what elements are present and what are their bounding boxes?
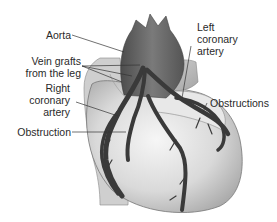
label-aorta: Aorta bbox=[46, 29, 71, 41]
vein-grafts-text-2: from the leg bbox=[26, 67, 81, 79]
heart-bypass-diagram: Aorta Vein grafts from the leg Right cor… bbox=[0, 0, 277, 222]
label-obstructions: Obstructions bbox=[210, 97, 269, 109]
aorta-leader bbox=[72, 35, 124, 52]
label-obstruction: Obstruction bbox=[17, 126, 71, 138]
left-coronary-text-2: coronary bbox=[197, 33, 238, 45]
right-coronary-text-3: artery bbox=[29, 106, 70, 118]
right-coronary-text-1: Right bbox=[29, 82, 70, 94]
obstruction-text: Obstruction bbox=[17, 126, 71, 138]
label-vein-grafts: Vein grafts from the leg bbox=[26, 55, 81, 79]
obstructions-text: Obstructions bbox=[210, 97, 269, 109]
label-right-coronary-artery: Right coronary artery bbox=[29, 82, 70, 118]
left-coronary-text-1: Left bbox=[197, 21, 238, 33]
vein-grafts-text-1: Vein grafts bbox=[26, 55, 81, 67]
aorta-text: Aorta bbox=[46, 29, 71, 41]
right-coronary-text-2: coronary bbox=[29, 94, 70, 106]
label-left-coronary-artery: Left coronary artery bbox=[197, 21, 238, 57]
left-coronary-text-3: artery bbox=[197, 45, 238, 57]
